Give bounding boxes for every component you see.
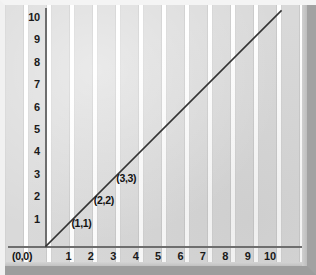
x-tick-label-10: 10: [257, 251, 283, 262]
y-tick-label-10: 10: [16, 12, 40, 23]
point-label-2-2: (2,2): [94, 195, 114, 206]
y-tick-label-5: 5: [16, 124, 40, 135]
y-tick-label-3: 3: [16, 169, 40, 180]
y-tick-label-8: 8: [16, 57, 40, 68]
y-tick-label-4: 4: [16, 146, 40, 157]
right-bevel-shadow: [302, 5, 307, 266]
point-label-3-3: (3,3): [116, 173, 136, 184]
y-tick-label-11: 11: [16, 0, 40, 1]
graph-paper-figure: 1234567891011 12345678910 (1,1)(2,2)(3,3…: [0, 0, 316, 275]
y-tick-label-1: 1: [16, 214, 40, 225]
y-tick-label-2: 2: [16, 191, 40, 202]
line-series-yx: [0, 0, 316, 275]
bottom-bevel-shadow: [5, 262, 307, 266]
plot-area: 1234567891011 12345678910 (1,1)(2,2)(3,3…: [0, 0, 316, 275]
y-tick-label-6: 6: [16, 102, 40, 113]
point-label-1-1: (1,1): [71, 218, 91, 229]
origin-label: (0,0): [12, 251, 32, 262]
y-tick-label-7: 7: [16, 79, 40, 90]
y-tick-label-9: 9: [16, 34, 40, 45]
